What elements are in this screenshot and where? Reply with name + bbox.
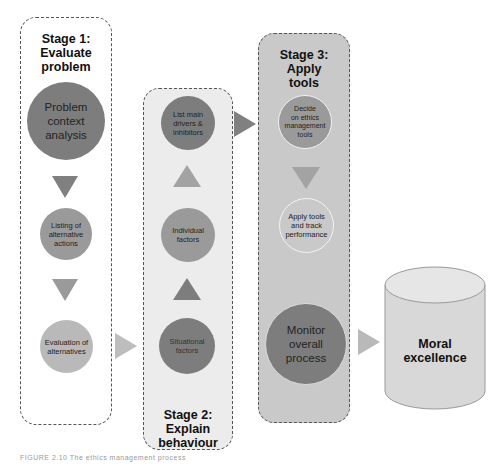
node-listing-alternative-actions: Listing ofalternativeactions (40, 208, 92, 260)
node-monitor-overall-process: Monitoroverallprocess (265, 303, 347, 385)
arrow-right-icon (358, 329, 380, 355)
stage-1-title: Stage 1: Evaluate problem (20, 32, 112, 74)
node-list-main-drivers-inhibitors: List maindrivers &inhibitors (161, 96, 215, 150)
figure-caption: FIGURE 2.10 The ethics management proces… (20, 454, 186, 461)
node-situational-factors: Situationalfactors (159, 318, 215, 374)
stage-2-title: Stage 2: Explain behaviour (143, 408, 233, 450)
node-evaluation-of-alternatives: Evaluation ofalternatives (40, 320, 93, 373)
node-problem-context-analysis: Problemcontextanalysis (27, 82, 105, 160)
arrow-up-icon (173, 278, 201, 300)
node-decide-ethics-management-tools: Decideon ethicsmanagementtools (278, 95, 332, 149)
stage-3-title: Stage 3: Apply tools (258, 48, 350, 90)
arrow-down-icon (52, 176, 78, 198)
arrow-down-icon (52, 279, 78, 301)
outcome-label: Moral excellence (383, 337, 487, 365)
node-individual-factors: Individualfactors (161, 208, 215, 262)
arrow-right-icon (115, 333, 137, 359)
arrow-down-icon (292, 167, 320, 189)
arrow-up-icon (173, 165, 201, 187)
arrow-right-icon (234, 111, 256, 137)
node-apply-tools-track-performance: Apply toolsand trackperformance (279, 198, 334, 253)
